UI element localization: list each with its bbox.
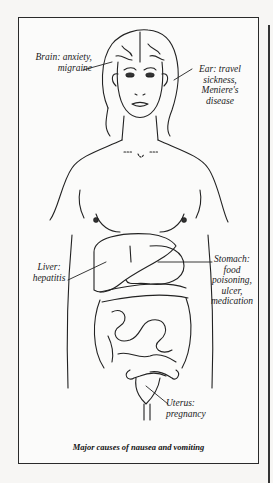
uterus-label-line1: Uterus: (166, 398, 226, 409)
stomach-label-line1: Stomach: (204, 254, 260, 265)
stomach-label-line3: poisoning, (204, 275, 260, 286)
stomach-label-line4: ulcer, (204, 286, 260, 297)
ear-label-line4: disease (190, 96, 250, 107)
liver-label-line1: Liver: (26, 262, 72, 273)
intestines-icon (94, 284, 191, 368)
leader-lines (68, 62, 212, 404)
uterus-label-line2: pregnancy (166, 409, 226, 420)
figure-caption: Major causes of nausea and vomiting (18, 442, 259, 452)
brain-label: Brain: anxiety, migraine (30, 52, 92, 73)
stomach-label-line5: medication (204, 296, 260, 307)
ear-label-line1: Ear: travel (190, 64, 250, 75)
head-icon (102, 30, 178, 140)
liver-label: Liver: hepatitis (26, 262, 72, 283)
stomach-label-line2: food (204, 265, 260, 276)
brain-label-line2: migraine (30, 63, 92, 74)
uterus-label: Uterus: pregnancy (166, 398, 226, 419)
ear-label: Ear: travel sickness, Meniere's disease (190, 64, 250, 106)
stomach-label: Stomach: food poisoning, ulcer, medicati… (204, 254, 260, 307)
torso-icon (50, 140, 228, 388)
ear-label-line2: sickness, (190, 75, 250, 86)
brain-label-line1: Brain: anxiety, (30, 52, 92, 63)
ear-label-line3: Meniere's (190, 85, 250, 96)
liver-label-line2: hepatitis (26, 273, 72, 284)
stomach-icon (126, 246, 184, 285)
